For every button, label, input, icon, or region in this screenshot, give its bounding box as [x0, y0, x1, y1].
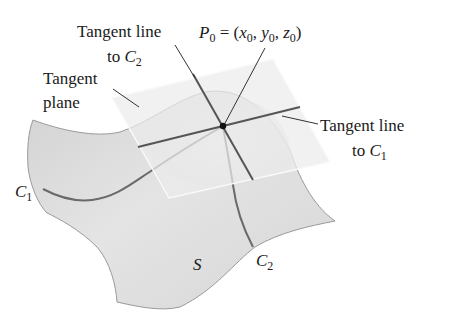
- label-tangent-line-c2-line2: to C2: [107, 47, 142, 69]
- leader-tangent-line-c2: [175, 45, 195, 78]
- label-curve-c2: C2: [256, 251, 273, 273]
- point-p0: [220, 123, 226, 129]
- label-surface-s: S: [193, 255, 202, 274]
- label-curve-c1: C1: [15, 182, 32, 204]
- label-point-p0: P0 = (x0, y0, z0): [198, 23, 302, 45]
- tangent-plane-diagram: Tangent line to C2 P0 = (x0, y0, z0) Tan…: [0, 0, 464, 333]
- label-tangent-plane-line2: plane: [43, 93, 80, 112]
- label-tangent-line-c1-line1: Tangent line: [320, 116, 404, 135]
- label-tangent-line-c1-line2: to C1: [352, 141, 387, 163]
- label-tangent-plane-line1: Tangent: [43, 69, 98, 88]
- label-tangent-line-c2-line1: Tangent line: [77, 22, 161, 41]
